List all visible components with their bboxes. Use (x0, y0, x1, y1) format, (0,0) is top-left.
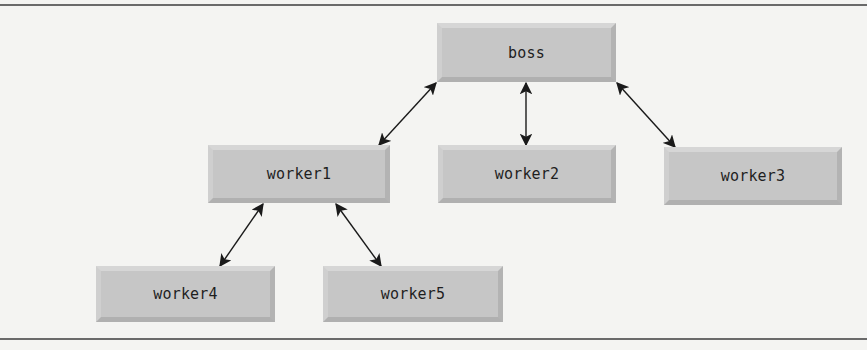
node-worker1: worker1 (208, 145, 390, 203)
diagram-canvas: boss worker1 worker2 worker3 worker4 wor… (0, 0, 867, 350)
edge-arrow-worker1-worker4 (220, 204, 263, 266)
node-label-boss: boss (508, 44, 545, 62)
top-rule (0, 4, 867, 6)
edge-arrow-boss-worker3 (617, 83, 675, 147)
edge-arrow-boss-worker1 (379, 83, 436, 145)
node-worker3: worker3 (664, 147, 842, 205)
node-worker5: worker5 (323, 266, 503, 322)
node-label-worker2: worker2 (495, 165, 560, 183)
node-label-worker1: worker1 (267, 165, 332, 183)
node-worker4: worker4 (96, 266, 275, 322)
node-boss: boss (437, 23, 616, 82)
node-label-worker4: worker4 (153, 285, 218, 303)
node-worker2: worker2 (438, 145, 616, 203)
bottom-rule (0, 338, 867, 340)
node-label-worker3: worker3 (721, 167, 786, 185)
edge-arrow-worker1-worker5 (336, 204, 381, 266)
node-label-worker5: worker5 (381, 285, 446, 303)
